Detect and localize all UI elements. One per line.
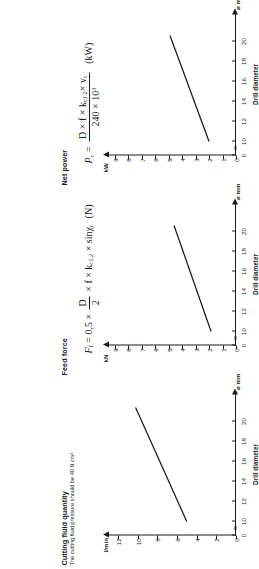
formula-subscript: f bbox=[87, 345, 94, 347]
numerator-dfk: D × f × k bbox=[77, 102, 88, 139]
plot-area-net-power: kW ø mm Drill diameter 01234567890101214… bbox=[108, 13, 208, 155]
y-axis-unit: kN bbox=[102, 354, 109, 362]
y-tick-label: 4 bbox=[193, 538, 200, 541]
formula-symbol: F bbox=[83, 347, 94, 353]
y-tick-label: 2 bbox=[206, 348, 208, 351]
y-tick-label: 8 bbox=[125, 158, 132, 161]
y-tick-label: 6 bbox=[173, 538, 180, 541]
y-tick-label: 3 bbox=[192, 158, 199, 161]
formula-feed-force: Ff = 0,5 × D 2 × f × kc1.2 × sinχr (N) bbox=[78, 204, 101, 353]
formula-fraction: D × f × kc1.2× vc 240 × 103 bbox=[78, 72, 102, 142]
formula-equals: = bbox=[83, 146, 94, 152]
y-tick-label: 6 bbox=[152, 348, 159, 351]
formula-term-fk: × f × k bbox=[83, 264, 94, 291]
y-tick-label: 7 bbox=[138, 158, 145, 161]
formula-subscript-r: r bbox=[87, 224, 94, 226]
denominator-240: 240 × 10 bbox=[90, 90, 101, 126]
fraction-denominator: 2 bbox=[89, 296, 102, 309]
y-tick-label: 9 bbox=[111, 158, 118, 161]
panel-title: Net power bbox=[60, 149, 69, 185]
fraction-numerator: D × f × kc1.2× vc bbox=[78, 72, 89, 142]
y-tick-label: 12 bbox=[114, 538, 121, 545]
chart-panel-feed-force: Feed force Ff = 0,5 × D 2 × f × kc1.2 × … bbox=[56, 190, 208, 379]
y-tick-label: 7 bbox=[138, 348, 145, 351]
formula-equals: = 0,5 × bbox=[83, 313, 94, 342]
y-tick-label: 6 bbox=[152, 158, 159, 161]
formula-unit: (kW) bbox=[83, 42, 94, 63]
fraction-numerator: D bbox=[78, 296, 89, 309]
formula-subscript-c12: c1.2 bbox=[87, 253, 94, 264]
formula-symbol: P bbox=[83, 157, 94, 163]
data-series-line bbox=[170, 35, 208, 141]
y-tick-label: 9 bbox=[111, 348, 118, 351]
panel-title: Cutting fluid quantity bbox=[60, 491, 69, 565]
fraction-denominator: 240 × 103 bbox=[89, 72, 102, 142]
numerator-subscript-c: c bbox=[81, 75, 88, 78]
formula-term-sin: × sinχ bbox=[83, 227, 94, 251]
formula-net-power: Pc = D × f × kc1.2× vc 240 × 103 (kW) bbox=[78, 42, 102, 163]
y-axis-unit: l/min bbox=[102, 538, 109, 552]
y-axis-unit: kW bbox=[102, 163, 109, 172]
y-tick-label: 5 bbox=[165, 158, 172, 161]
y-tick-label: 5 bbox=[165, 348, 172, 351]
panel-title: Feed force bbox=[60, 338, 69, 375]
formula-unit: (N) bbox=[83, 204, 94, 218]
data-line-cutting-fluid bbox=[108, 393, 208, 535]
panel-subtitle: The cutting fluid pressure should be 40 … bbox=[69, 452, 75, 565]
y-tick-label: 2 bbox=[206, 158, 208, 161]
data-series-line bbox=[136, 407, 187, 521]
y-tick-label: 3 bbox=[192, 348, 199, 351]
data-series-line bbox=[174, 225, 208, 331]
y-tick-label: 4 bbox=[179, 158, 186, 161]
numerator-vc: × v bbox=[77, 78, 88, 91]
plot-area-cutting-fluid: l/min ø mm Drill diameter 02468101201012… bbox=[108, 393, 208, 535]
formula-fraction: D 2 bbox=[78, 296, 101, 309]
data-line-net-power bbox=[108, 13, 208, 155]
chart-panel-net-power: Net power Pc = D × f × kc1.2× vc 240 × 1… bbox=[56, 0, 208, 189]
denominator-exponent: 3 bbox=[90, 87, 97, 90]
numerator-subscript-c12: c1.2 bbox=[81, 91, 88, 102]
chart-panel-cutting-fluid-quantity: Cutting fluid quantity The cutting fluid… bbox=[56, 380, 208, 569]
data-line-feed-force bbox=[108, 203, 208, 345]
y-tick-label: 10 bbox=[134, 538, 141, 545]
chart-sheet: Cutting fluid quantity The cutting fluid… bbox=[56, 0, 208, 569]
y-tick-label: 4 bbox=[179, 348, 186, 351]
formula-subscript: c bbox=[88, 154, 95, 157]
plot-area-feed-force: kN ø mm Drill diameter 01234567890101214… bbox=[108, 203, 208, 345]
y-tick-label: 8 bbox=[154, 538, 161, 541]
y-tick-label: 8 bbox=[125, 348, 132, 351]
